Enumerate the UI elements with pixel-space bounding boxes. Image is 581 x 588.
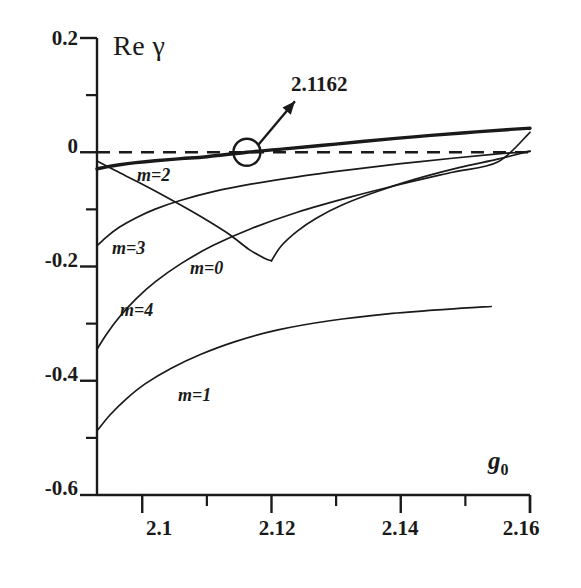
curve-m2 bbox=[97, 128, 530, 169]
x-tick-label-3: 2.16 bbox=[481, 516, 561, 541]
annotation-group bbox=[233, 101, 295, 166]
curve-m0-ascending bbox=[271, 151, 530, 261]
y-axis-title-prefix: Re bbox=[113, 30, 145, 61]
x-tick-label-1: 2.12 bbox=[237, 516, 317, 541]
x-axis-title: g0 bbox=[488, 447, 509, 479]
annotation-value-label: 2.1162 bbox=[291, 72, 348, 97]
curve-label-m4: m=4 bbox=[120, 300, 153, 321]
chart-canvas: 0.2 0 -0.2 -0.4 -0.6 2.1 2.12 2.14 2.16 … bbox=[0, 0, 581, 588]
y-tick-label-1: 0 bbox=[8, 134, 78, 159]
y-axis-title-symbol: γ bbox=[153, 30, 166, 61]
x-axis-title-sub: 0 bbox=[501, 461, 509, 478]
curve-label-m2: m=2 bbox=[137, 165, 170, 186]
y-tick-label-2: -0.2 bbox=[8, 248, 78, 273]
x-tick-label-0: 2.1 bbox=[119, 516, 199, 541]
curve-m1 bbox=[97, 306, 491, 431]
y-tick-label-0: 0.2 bbox=[8, 26, 78, 51]
curve-label-m1: m=1 bbox=[178, 385, 211, 406]
x-tick-label-2: 2.14 bbox=[360, 516, 440, 541]
y-axis-title: Re γ bbox=[113, 30, 165, 62]
curve-label-m3: m=3 bbox=[112, 238, 145, 259]
axes-group bbox=[80, 38, 530, 513]
curve-label-m0: m=0 bbox=[190, 258, 223, 279]
x-axis-title-base: g bbox=[488, 447, 501, 474]
y-tick-label-4: -0.6 bbox=[8, 476, 78, 501]
y-tick-label-3: -0.4 bbox=[8, 362, 78, 387]
